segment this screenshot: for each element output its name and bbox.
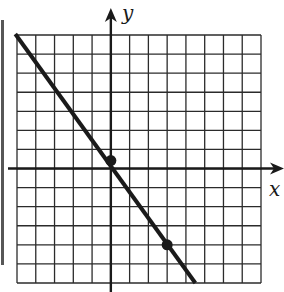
y-axis-label: y [121,1,134,25]
plot-line-group [15,34,195,283]
grid [17,35,261,283]
adjacent-figure-border [1,20,4,265]
x-axis-label: x [269,177,280,201]
coordinate-plane-figure: x y [0,0,284,292]
data-point [162,239,173,250]
data-point [105,155,116,166]
